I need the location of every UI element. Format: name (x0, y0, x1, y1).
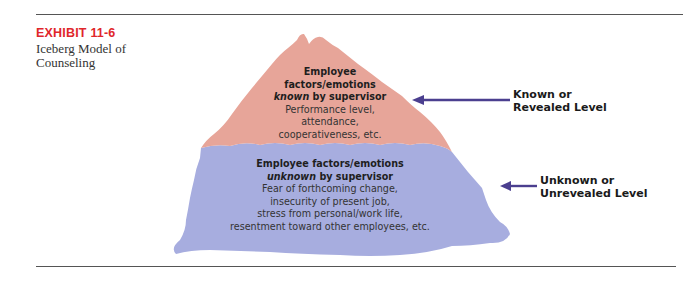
known-label-line1: Known or (513, 88, 607, 101)
unknown-body-line: resentment toward other employees, etc. (225, 221, 435, 234)
iceberg-diagram (0, 0, 683, 282)
unknown-heading-rest: by supervisor (316, 171, 393, 182)
known-body-line: Performance level, (250, 104, 410, 117)
unknown-level-label: Unknown or Unrevealed Level (540, 174, 648, 200)
known-body-line: cooperativeness, etc. (250, 129, 410, 142)
unknown-body-line: stress from personal/work life, (225, 208, 435, 221)
known-level-label: Known or Revealed Level (513, 88, 607, 114)
unknown-heading-line1: Employee factors/emotions (225, 158, 435, 171)
unknown-factors-text: Employee factors/emotions unknown by sup… (225, 158, 435, 233)
known-label-line2: Revealed Level (513, 101, 607, 114)
unknown-level-arrow (500, 181, 537, 191)
unknown-body-line: insecurity of present job, (225, 196, 435, 209)
unknown-body-line: Fear of forthcoming change, (225, 183, 435, 196)
known-heading-rest: by supervisor (309, 91, 386, 102)
unknown-heading-em: unknown (267, 171, 316, 182)
known-level-arrow (412, 95, 510, 105)
bottom-rule (36, 266, 676, 267)
known-factors-text: Employee factors/emotions known by super… (250, 66, 410, 141)
known-heading-line1: Employee (250, 66, 410, 79)
known-body-line: attendance, (250, 116, 410, 129)
unknown-label-line1: Unknown or (540, 174, 648, 187)
unknown-label-line2: Unrevealed Level (540, 187, 648, 200)
known-heading-em: known (274, 91, 310, 102)
known-heading-line2: factors/emotions (250, 79, 410, 92)
